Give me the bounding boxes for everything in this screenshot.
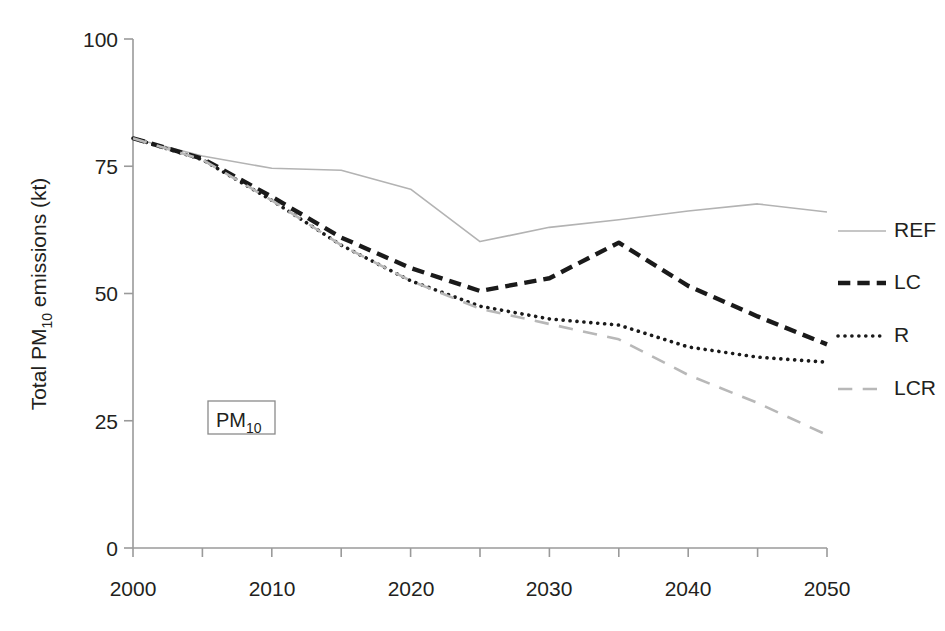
- annotation-text-prefix: PM: [216, 409, 246, 431]
- legend-label-ref: REF: [894, 218, 936, 241]
- x-tick-label-2030: 2030: [526, 577, 573, 600]
- y-tick-label-75: 75: [95, 155, 118, 178]
- x-axis-tick-labels: 2000 2010 2020 2030 2040 2050: [110, 577, 851, 600]
- data-series-layer: [133, 138, 827, 435]
- x-tick-label-2040: 2040: [665, 577, 712, 600]
- y-axis-ticks: [124, 39, 133, 548]
- legend-label-lc: LC: [894, 270, 921, 293]
- legend-swatches: [838, 231, 886, 389]
- y-tick-label-0: 0: [106, 537, 118, 560]
- series-line-r: [133, 138, 827, 362]
- x-tick-label-2020: 2020: [388, 577, 435, 600]
- y-axis-title-prefix: Total PM: [27, 329, 50, 411]
- y-axis-title: Total PM10 emissions (kt): [27, 178, 55, 411]
- x-tick-label-2010: 2010: [249, 577, 296, 600]
- y-axis-title-subscript: 10: [39, 313, 55, 329]
- annotation-pm10: PM10: [208, 401, 275, 436]
- y-axis-title-suffix: emissions (kt): [27, 178, 50, 313]
- legend-label-lcr: LCR: [894, 376, 936, 399]
- series-line-lcr: [133, 138, 827, 435]
- chart-axes: [133, 39, 827, 548]
- chart-figure: 100 75 50 25 0 2000 2010 2020 2030 2040 …: [0, 0, 945, 631]
- line-chart: 100 75 50 25 0 2000 2010 2020 2030 2040 …: [0, 0, 945, 631]
- chart-legend: REF LC R LCR: [838, 218, 936, 399]
- y-tick-label-50: 50: [95, 282, 118, 305]
- series-line-ref: [133, 138, 827, 241]
- y-tick-label-25: 25: [95, 410, 118, 433]
- x-tick-label-2050: 2050: [804, 577, 851, 600]
- y-axis-tick-labels: 100 75 50 25 0: [83, 28, 118, 560]
- annotation-text-subscript: 10: [246, 420, 262, 436]
- x-axis-ticks: [133, 548, 827, 557]
- legend-label-r: R: [894, 323, 909, 346]
- y-tick-label-100: 100: [83, 28, 118, 51]
- x-tick-label-2000: 2000: [110, 577, 157, 600]
